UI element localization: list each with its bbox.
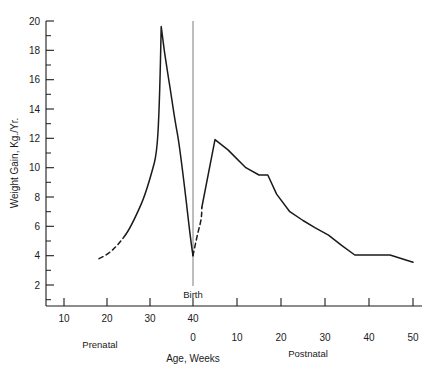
x-axis-title: Age, Weeks xyxy=(166,353,220,364)
curve-postnatal-extrapolated xyxy=(193,208,202,256)
y-tick-label-16: 16 xyxy=(29,74,41,85)
y-tick-label-20: 20 xyxy=(29,16,41,27)
prenatal-tick-label-20: 20 xyxy=(101,313,113,324)
prenatal-tick-label-40: 40 xyxy=(187,313,199,324)
prenatal-tick-label-30: 30 xyxy=(144,313,156,324)
y-tick-label-18: 18 xyxy=(29,45,41,56)
growth-velocity-chart: 20 18 16 14 12 10 8 6 4 2 Weight Gain, K… xyxy=(0,0,428,372)
postnatal-phase-label: Postnatal xyxy=(288,348,328,359)
y-axis-title: Weight Gain, Kg./Yr. xyxy=(9,118,20,208)
y-tick-label-4: 4 xyxy=(34,250,40,261)
x-axis-prenatal-ticks xyxy=(64,298,413,306)
birth-annotation-label: Birth xyxy=(183,289,203,300)
postnatal-tick-label-50: 50 xyxy=(407,332,419,343)
curve-prenatal-extrapolated xyxy=(99,234,126,258)
postnatal-tick-label-40: 40 xyxy=(363,332,375,343)
y-tick-label-2: 2 xyxy=(34,280,40,291)
y-tick-label-12: 12 xyxy=(29,133,41,144)
curve-prenatal-measured xyxy=(126,27,193,256)
postnatal-tick-label-0: 0 xyxy=(190,332,196,343)
prenatal-phase-label: Prenatal xyxy=(82,339,117,350)
x-axis-postnatal-tick-labels: 0 10 20 30 40 50 xyxy=(190,332,419,343)
prenatal-tick-label-10: 10 xyxy=(58,313,70,324)
x-axis-prenatal-tick-labels: 10 20 30 40 xyxy=(58,313,199,324)
curve-postnatal-measured xyxy=(202,140,413,263)
chart-canvas: 20 18 16 14 12 10 8 6 4 2 Weight Gain, K… xyxy=(0,0,428,372)
postnatal-tick-label-10: 10 xyxy=(231,332,243,343)
data-curves xyxy=(99,27,413,263)
postnatal-tick-label-30: 30 xyxy=(319,332,331,343)
y-tick-label-14: 14 xyxy=(29,104,41,115)
y-tick-label-6: 6 xyxy=(34,221,40,232)
postnatal-tick-label-20: 20 xyxy=(275,332,287,343)
y-tick-label-8: 8 xyxy=(34,192,40,203)
axis-lines xyxy=(46,21,422,306)
y-tick-label-10: 10 xyxy=(29,162,41,173)
y-axis-tick-labels: 20 18 16 14 12 10 8 6 4 2 xyxy=(29,16,41,291)
